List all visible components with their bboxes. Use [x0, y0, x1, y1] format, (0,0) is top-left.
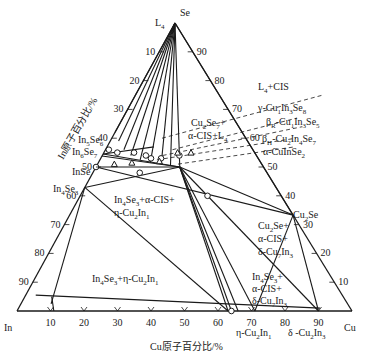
fan-line-2: [124, 23, 175, 150]
bottom-label-delta: δ -Cu2In3: [288, 327, 326, 341]
region-label-l4-cis: L4+CIS: [258, 81, 289, 95]
tick-label-bottom-20: 20: [79, 317, 89, 328]
triangle-marker-4: [188, 150, 194, 156]
tick-label-right-20: 20: [321, 247, 331, 258]
tick-label-right-40: 40: [285, 190, 295, 201]
phase-label-alpha-cis: α-CuInSe2: [263, 146, 306, 160]
tie-in4se3-in: [51, 187, 85, 303]
tie-cis-71: [180, 167, 255, 311]
tick-label-right-10: 10: [338, 276, 348, 287]
region-label-eta-1: η-Cu2In1: [114, 207, 150, 221]
corner-label-cu: Cu: [344, 322, 356, 333]
tick-label-left-10: 10: [145, 46, 155, 57]
tie-in4se3-eta: [85, 187, 228, 311]
ternary-phase-diagram: 1020304050607080901020304050607080909080…: [0, 0, 369, 359]
tick-label-left-70: 70: [50, 219, 60, 230]
tie-cis-90: [180, 167, 319, 311]
phase-label-in6se7: In6Se7: [72, 146, 98, 160]
tick-label-left-30: 30: [114, 103, 124, 114]
phase-label-gamma: γ-Cu1In3Se8: [257, 102, 307, 116]
tie-cis-64: [180, 167, 232, 311]
region-label-alpha-cis-l4: α-CIS+L4: [188, 130, 228, 144]
tick-label-left-80: 80: [35, 247, 45, 258]
tick-label-bottom-50: 50: [180, 317, 190, 328]
tick-label-right-70: 70: [232, 103, 242, 114]
circle-marker-8: [137, 170, 143, 176]
corner-label-in: In: [4, 322, 12, 333]
tick-label-right-50: 50: [268, 161, 278, 172]
axis-title-bottom: Cu原子百分比/%: [150, 341, 223, 352]
tick-label-bottom-40: 40: [146, 317, 156, 328]
circle-marker-4: [148, 156, 154, 162]
circle-marker-10: [229, 308, 235, 314]
region-label-alpha-cis-3: α-CIS+: [252, 283, 282, 294]
triangle-marker-0: [111, 161, 117, 167]
region-label-cu2se-plus: Cu2Se+: [258, 220, 289, 234]
bottom-label-eta: η-Cu2In1: [236, 327, 272, 341]
tick-label-bottom-10: 10: [46, 317, 56, 328]
region-label-in4se3-cis: In4Se3+α-CIS+: [114, 194, 175, 208]
circle-marker-1: [115, 150, 121, 156]
tick-label-bottom-60: 60: [213, 317, 223, 328]
tick-label-left-90: 90: [19, 276, 29, 287]
fan-line-4: [140, 23, 175, 160]
tick-label-right-80: 80: [214, 75, 224, 86]
fan-line-1: [119, 23, 175, 141]
tie-lines: [17, 23, 352, 311]
region-label-alpha-cis-2: α-CIS+: [258, 233, 288, 244]
circle-marker-2: [131, 150, 137, 156]
corner-label-se: Se: [180, 7, 191, 18]
circle-marker-0: [106, 147, 112, 153]
tick-label-bottom-30: 30: [113, 317, 123, 328]
phase-label-beta-h: βH-Cu2In4Se7: [262, 133, 317, 147]
circle-marker-9: [205, 193, 211, 199]
tick-label-right-90: 90: [197, 46, 207, 57]
phase-label-beta-r: βR-Cu1In3Se5: [266, 116, 320, 130]
region-label-in4se3-eta: In4Se3+η-Cu2In1: [92, 273, 159, 287]
phase-label-l4: L4: [155, 17, 165, 31]
tick-label-right-60: 60: [250, 132, 260, 143]
phase-label-inse: InSe: [72, 166, 91, 177]
tick-label-left-20: 20: [129, 75, 139, 86]
fan-line-8: [175, 23, 180, 167]
